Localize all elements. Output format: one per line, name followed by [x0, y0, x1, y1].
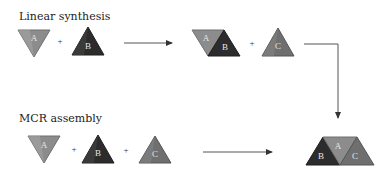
reaction-arrow-elbow — [304, 44, 338, 118]
reactant-b-linear: B — [72, 27, 104, 55]
reactant-c-linear: C — [262, 28, 294, 56]
reactant-c-mcr: C — [139, 136, 171, 163]
letter-b: B — [222, 42, 228, 52]
reactant-a-mcr: A — [28, 136, 60, 163]
product-bac: B A C — [306, 137, 374, 165]
letter-c: C — [275, 41, 281, 51]
letter-b: B — [85, 41, 91, 51]
intermediate-ab: A B — [192, 30, 240, 56]
letter-a: A — [31, 33, 38, 43]
plus-sign: + — [71, 144, 76, 154]
letter-a: A — [335, 141, 342, 151]
letter-a: A — [41, 140, 48, 150]
reactant-a-linear: A — [18, 30, 50, 57]
letter-b: B — [95, 148, 101, 158]
letter-b: B — [318, 151, 324, 161]
plus-sign: + — [57, 36, 62, 46]
letter-a: A — [203, 33, 210, 43]
plus-sign: + — [249, 38, 254, 48]
letter-c: C — [152, 149, 158, 159]
reactant-b-mcr: B — [82, 135, 114, 163]
plus-sign: + — [123, 145, 128, 155]
letter-c: C — [352, 151, 358, 161]
